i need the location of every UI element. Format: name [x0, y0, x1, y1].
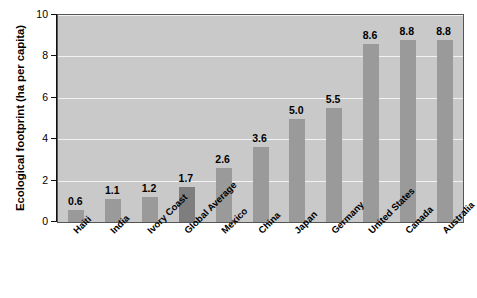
gridline — [58, 15, 463, 16]
bar — [437, 40, 453, 222]
bar-value-label: 3.6 — [240, 132, 280, 144]
y-tick-label: 10 — [0, 8, 48, 20]
y-tick-label: 0 — [0, 215, 48, 227]
bar — [326, 108, 342, 222]
y-tick-mark — [51, 221, 56, 222]
bar — [289, 119, 305, 223]
y-tick-mark — [51, 14, 56, 15]
y-tick-mark — [51, 97, 56, 98]
y-tick-label: 8 — [0, 49, 48, 61]
bar-value-label: 1.2 — [129, 182, 169, 194]
y-tick-label: 6 — [0, 91, 48, 103]
bar-value-label: 5.0 — [276, 104, 316, 116]
bar — [253, 147, 269, 222]
y-tick-mark — [51, 138, 56, 139]
y-tick-label: 4 — [0, 132, 48, 144]
y-axis-title: Ecological footprint (ha per capita) — [14, 3, 26, 233]
bar — [363, 44, 379, 222]
bar-value-label: 1.1 — [92, 184, 132, 196]
bar-value-label: 8.8 — [424, 25, 464, 37]
bar-value-label: 8.6 — [350, 29, 390, 41]
ecological-footprint-bar-chart: Ecological footprint (ha per capita) 024… — [0, 0, 477, 298]
bar-value-label: 8.8 — [387, 25, 427, 37]
bar-value-label: 5.5 — [313, 93, 353, 105]
bar-value-label: 1.7 — [166, 172, 206, 184]
bar-value-label: 0.6 — [55, 195, 95, 207]
y-tick-label: 2 — [0, 174, 48, 186]
y-tick-mark — [51, 55, 56, 56]
bar-value-label: 2.6 — [203, 153, 243, 165]
y-tick-mark — [51, 180, 56, 181]
